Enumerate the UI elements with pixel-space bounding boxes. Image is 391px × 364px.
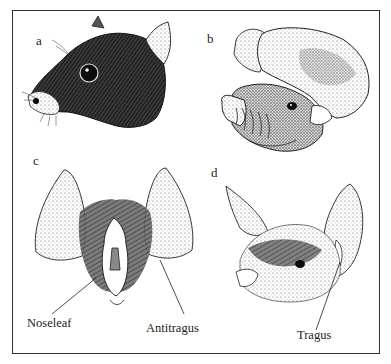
callout-noseleaf: Noseleaf [27,317,71,330]
panel-a-illustration [22,16,171,127]
panel-b-illustration [222,28,369,151]
panel-c-illustration [35,168,193,314]
panel-label-d: d [211,166,218,179]
panel-label-b: b [207,32,214,45]
panel-label-a: a [36,34,42,47]
callout-antitragus: Antitragus [146,322,199,335]
panel-d-illustration [226,184,363,330]
panel-label-c: c [33,154,39,167]
illustration-canvas [0,0,391,364]
callout-tragus: Tragus [297,329,331,342]
